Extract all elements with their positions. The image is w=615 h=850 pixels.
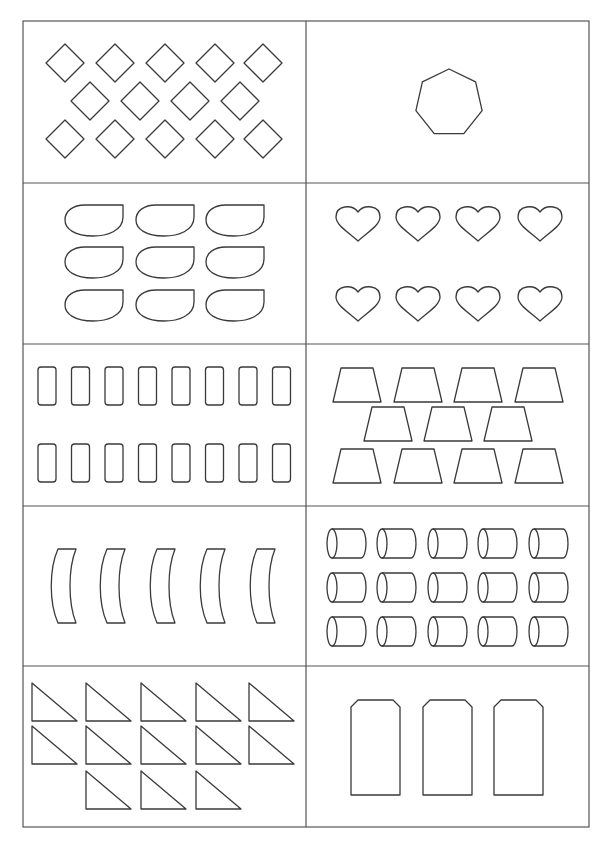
trapezoid-shape xyxy=(454,368,502,402)
teardrop-shape xyxy=(136,247,194,278)
cell-heptagon xyxy=(416,69,482,134)
curved-bar-shape xyxy=(200,549,225,623)
rounded-rectangle-shape xyxy=(172,367,190,405)
right-triangle-shape xyxy=(86,726,131,764)
cylinder-shape xyxy=(327,573,337,602)
teardrop-shape xyxy=(136,205,194,236)
cylinder-shape xyxy=(327,529,337,558)
teardrop-shape xyxy=(206,205,264,236)
heart-shape xyxy=(518,207,562,241)
rounded-rectangle-shape xyxy=(139,444,157,482)
curved-bar-shape xyxy=(150,549,175,623)
teardrop-shape xyxy=(136,290,194,321)
rounded-rectangle-shape xyxy=(172,444,190,482)
trapezoid-shape xyxy=(515,449,563,483)
cylinder-shape xyxy=(428,617,438,646)
teardrop-shape xyxy=(65,205,123,236)
cell-teardrops xyxy=(65,205,264,321)
diamond-shape xyxy=(244,44,282,82)
trapezoid-shape xyxy=(394,368,442,402)
teardrop-shape xyxy=(65,247,123,278)
trapezoid-shape xyxy=(364,407,412,441)
diamond-shape xyxy=(244,120,282,158)
teardrop-shape xyxy=(65,290,123,321)
right-triangle-shape xyxy=(141,683,186,721)
heptagon-shape xyxy=(416,69,482,134)
cylinder-shape xyxy=(478,529,488,558)
cylinder-shape xyxy=(529,529,539,558)
cell-hearts xyxy=(336,207,562,321)
rounded-rectangle-shape xyxy=(139,367,157,405)
trapezoid-shape xyxy=(333,368,381,402)
right-triangle-shape xyxy=(32,726,77,764)
diamond-shape xyxy=(46,120,84,158)
curved-bar-shape xyxy=(51,549,76,623)
diamond-shape xyxy=(96,120,134,158)
diamond-shape xyxy=(121,82,159,120)
cell-tags xyxy=(351,700,543,795)
teardrop-shape xyxy=(206,247,264,278)
curved-bar-shape xyxy=(100,549,125,623)
diamond-shape xyxy=(146,44,184,82)
tag-shape xyxy=(351,700,400,795)
trapezoid-shape xyxy=(454,449,502,483)
rounded-rectangle-shape xyxy=(206,367,224,405)
trapezoid-shape xyxy=(515,368,563,402)
rounded-rectangle-shape xyxy=(239,444,257,482)
right-triangle-shape xyxy=(86,683,131,721)
heart-shape xyxy=(518,287,562,321)
rounded-rectangle-shape xyxy=(206,444,224,482)
rounded-rectangle-shape xyxy=(273,444,291,482)
right-triangle-shape xyxy=(196,726,241,764)
trapezoid-shape xyxy=(394,449,442,483)
rounded-rectangle-shape xyxy=(72,444,90,482)
diamond-shape xyxy=(221,82,259,120)
diamond-shape xyxy=(196,44,234,82)
rounded-rectangle-shape xyxy=(105,367,123,405)
heart-shape xyxy=(396,287,440,321)
cell-curved-bars xyxy=(51,549,275,623)
cylinder-shape xyxy=(377,617,387,646)
cell-right-triangles xyxy=(32,683,294,809)
diamond-shape xyxy=(196,120,234,158)
heart-shape xyxy=(336,207,380,241)
rounded-rectangle-shape xyxy=(239,367,257,405)
cell-trapezoids xyxy=(333,368,563,483)
cylinder-shape xyxy=(377,529,387,558)
diamond-shape xyxy=(71,82,109,120)
tag-shape xyxy=(423,700,472,795)
cylinder-shape xyxy=(428,529,438,558)
cylinder-shape xyxy=(327,617,337,646)
right-triangle-shape xyxy=(196,771,241,809)
heart-shape xyxy=(456,287,500,321)
cylinder-shape xyxy=(529,617,539,646)
diamond-shape xyxy=(96,44,134,82)
right-triangle-shape xyxy=(196,683,241,721)
shape-counting-worksheet xyxy=(0,0,615,850)
teardrop-shape xyxy=(206,290,264,321)
heart-shape xyxy=(396,207,440,241)
right-triangle-shape xyxy=(86,771,131,809)
diamond-shape xyxy=(146,120,184,158)
tag-shape xyxy=(494,700,543,795)
right-triangle-shape xyxy=(141,726,186,764)
right-triangle-shape xyxy=(32,683,77,721)
trapezoid-shape xyxy=(333,449,381,483)
heart-shape xyxy=(336,287,380,321)
cell-diamonds xyxy=(46,44,282,158)
trapezoid-shape xyxy=(484,407,532,441)
cylinder-shape xyxy=(428,573,438,602)
rounded-rectangle-shape xyxy=(105,444,123,482)
right-triangle-shape xyxy=(249,726,294,764)
rounded-rectangle-shape xyxy=(72,367,90,405)
worksheet-grid xyxy=(23,21,589,827)
cell-cylinders xyxy=(327,529,568,646)
cylinder-shape xyxy=(529,573,539,602)
right-triangle-shape xyxy=(141,771,186,809)
curved-bar-shape xyxy=(250,549,275,623)
cylinder-shape xyxy=(478,617,488,646)
trapezoid-shape xyxy=(424,407,472,441)
rounded-rectangle-shape xyxy=(38,367,56,405)
cell-rounded-rectangles xyxy=(38,367,291,482)
diamond-shape xyxy=(46,44,84,82)
